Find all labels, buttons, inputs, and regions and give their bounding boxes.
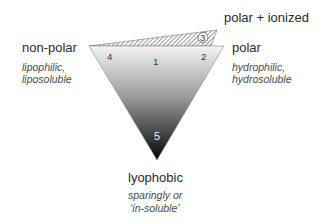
region-4-number: 4 xyxy=(107,51,112,62)
polar-ionized-label: polar + ionized xyxy=(224,10,309,25)
polar-desc-2: hydrosoluble xyxy=(232,73,292,85)
non-polar-desc-1: lipophilic, xyxy=(22,61,65,73)
lyophobic-desc-1: sparingly or xyxy=(128,189,182,201)
region-5-number: 5 xyxy=(154,130,160,142)
non-polar-desc-2: liposoluble xyxy=(22,73,72,85)
lyophobic-label: lyophobic xyxy=(128,170,183,185)
polar-desc-1: hydrophilic, xyxy=(232,61,285,73)
region-1-number: 1 xyxy=(153,56,158,67)
region-3-number: 3 xyxy=(200,32,205,43)
lyophobic-desc-2: ‘in-soluble’ xyxy=(130,202,180,214)
polar-label: polar xyxy=(232,40,261,55)
non-polar-label: non-polar xyxy=(22,40,77,55)
region-2-number: 2 xyxy=(201,51,206,62)
